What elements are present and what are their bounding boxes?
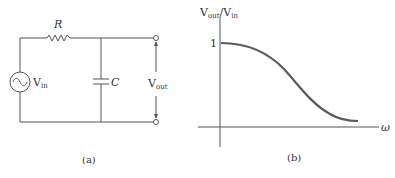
- figure: R C Vin Vout (a) Vout/Vin 1 ω (b): [0, 0, 395, 178]
- capacitor-label: C: [111, 76, 120, 89]
- y-axis-label: Vout/Vin: [199, 6, 238, 20]
- vout-arrowhead-down-icon: [154, 114, 158, 119]
- output-voltage-label: Vout: [147, 77, 168, 91]
- source-label: Vin: [32, 76, 48, 90]
- sine-wave-icon: [13, 78, 27, 86]
- output-terminal-top: [154, 36, 159, 41]
- caption-b: (b): [287, 152, 301, 163]
- x-axis-label: ω: [381, 121, 390, 134]
- resistor-label: R: [53, 18, 62, 31]
- frequency-response-graph: [198, 18, 379, 147]
- output-terminal-bottom: [154, 120, 159, 125]
- caption-a: (a): [82, 154, 96, 165]
- vout-arrowhead-up-icon: [154, 41, 158, 46]
- response-curve: [221, 43, 358, 121]
- resistor-icon: [47, 35, 70, 41]
- y-tick-label-1: 1: [210, 37, 217, 50]
